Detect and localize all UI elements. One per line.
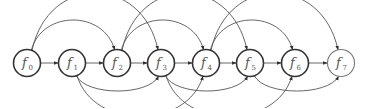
node-f3: f3 (148, 50, 175, 77)
node-circle (237, 50, 264, 77)
node-subscript: 4 (208, 64, 213, 72)
edge-f1-to-f4 (77, 76, 203, 109)
edge-f3-to-f6 (166, 76, 292, 109)
node-f6: f6 (282, 50, 309, 77)
edge-f5-to-f7 (254, 76, 338, 91)
node-f7: f7 (328, 50, 355, 77)
node-f4: f4 (193, 50, 220, 77)
node-circle (193, 50, 220, 77)
edge-f3-to-f5 (165, 76, 247, 91)
node-subscript: 6 (297, 64, 302, 72)
edge-f2-to-f4 (121, 20, 203, 50)
node-circle (328, 50, 355, 77)
node-subscript: 5 (252, 64, 256, 72)
graph-canvas: f0f1f2f3f4f5f6f7 (0, 0, 368, 108)
node-f1: f1 (59, 50, 86, 77)
node-circle (104, 50, 131, 77)
node-subscript: 0 (29, 64, 33, 72)
graph-diagram: f0f1f2f3f4f5f6f7 (0, 0, 368, 108)
edge-f4-to-f6 (210, 20, 292, 50)
node-subscript: 7 (343, 64, 347, 72)
node-f0: f0 (14, 50, 41, 77)
node-subscript: 1 (74, 64, 78, 72)
node-subscript: 3 (163, 64, 167, 72)
edge-f1-to-f3 (76, 76, 158, 91)
node-f2: f2 (104, 50, 131, 77)
edge-f0-to-f2 (31, 20, 114, 50)
node-circle (148, 50, 175, 77)
node-f5: f5 (237, 50, 264, 77)
node-subscript: 2 (119, 64, 123, 72)
node-circle (59, 50, 86, 77)
node-circle (282, 50, 309, 77)
node-circle (14, 50, 41, 77)
